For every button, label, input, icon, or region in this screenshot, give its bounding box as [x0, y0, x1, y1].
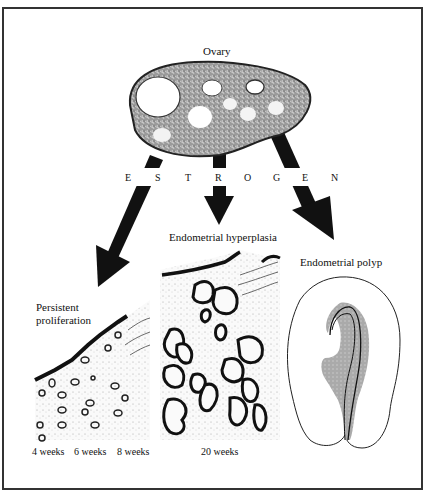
- estrogen-letter-e1: E: [125, 172, 131, 183]
- proliferation-label-line2: proliferation: [36, 314, 91, 327]
- arrow-middle: [204, 150, 234, 225]
- time-label-20-weeks: 20 weeks: [201, 446, 239, 457]
- estrogen-letter-g: G: [273, 172, 280, 183]
- hyperplasia-label: Endometrial hyperplasia: [169, 231, 277, 243]
- estrogen-letter-s: S: [155, 172, 161, 183]
- time-label-6-weeks: 6 weeks: [74, 446, 107, 457]
- proliferation-label-line1: Persistent: [36, 301, 91, 314]
- time-label-4-weeks: 4 weeks: [32, 446, 65, 457]
- time-label-8-weeks: 8 weeks: [117, 446, 150, 457]
- estrogen-letter-o: O: [244, 172, 251, 183]
- estrogen-letter-n: N: [331, 172, 338, 183]
- diagram-artwork: [0, 0, 428, 500]
- proliferation-label: Persistent proliferation: [36, 301, 91, 327]
- polyp-illustration: [287, 277, 400, 448]
- estrogen-letter-e2: E: [302, 172, 308, 183]
- hyperplasia-tissue: [160, 250, 280, 440]
- estrogen-letter-t: T: [185, 172, 191, 183]
- ovary-label: Ovary: [203, 45, 231, 57]
- polyp-label: Endometrial polyp: [300, 256, 382, 268]
- estrogen-letter-r: R: [215, 172, 222, 183]
